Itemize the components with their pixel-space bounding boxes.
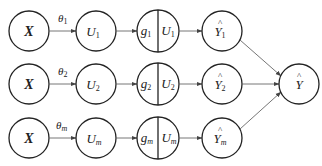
input-node-x-m: X xyxy=(9,118,49,158)
yhat-node-2: ^ Y2 xyxy=(202,64,242,104)
input-label: X xyxy=(23,131,34,146)
u-node-1: U1 xyxy=(76,11,116,51)
row-1: X θ1 U1 g1 U1 ^ Y1 xyxy=(9,10,242,52)
input-node-x-1: X xyxy=(9,11,49,51)
final-yhat-node: ^ Y xyxy=(279,64,319,104)
split-node-g-u-2: g2 U2 xyxy=(137,63,179,105)
yhat-node-m: ^ Ym xyxy=(202,118,242,158)
input-label: X xyxy=(23,24,34,39)
edge-yhat1-to-final xyxy=(240,40,281,76)
row-2: X θ2 U2 g2 U2 ^ Y2 xyxy=(9,63,242,105)
theta-label-2: θ2 xyxy=(58,65,67,79)
edge-yhatm-to-final xyxy=(240,92,281,129)
input-node-x-2: X xyxy=(9,64,49,104)
yhat-node-1: ^ Y1 xyxy=(202,11,242,51)
ensemble-diagram: X θ1 U1 g1 U1 ^ Y1 X θ2 xyxy=(0,0,322,166)
theta-label-m: θm xyxy=(56,119,67,133)
theta-label-1: θ1 xyxy=(58,12,67,26)
u-node-2: U2 xyxy=(76,64,116,104)
row-m: X θm Um gm Um ^ Ym xyxy=(9,117,242,159)
input-label: X xyxy=(23,77,34,92)
split-node-g-u-m: gm Um xyxy=(137,117,179,159)
split-node-g-u-1: g1 U1 xyxy=(137,10,179,52)
u-node-m: Um xyxy=(76,118,116,158)
